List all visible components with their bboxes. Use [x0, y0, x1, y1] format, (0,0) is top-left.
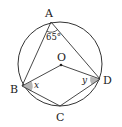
segment-CD — [60, 79, 100, 106]
label-B: B — [10, 83, 18, 96]
label-D: D — [103, 74, 112, 87]
segment-BC — [22, 86, 60, 106]
geometry-diagram: A O B C D 65° x y — [0, 0, 122, 127]
label-A: A — [44, 7, 54, 20]
label-O: O — [57, 51, 66, 64]
angle-y-label: y — [81, 75, 88, 85]
center-point-O — [60, 64, 63, 67]
segment-OB — [22, 65, 61, 86]
angle-A-label: 65° — [46, 32, 61, 42]
label-C: C — [56, 111, 64, 124]
angle-x-label: x — [34, 80, 39, 90]
